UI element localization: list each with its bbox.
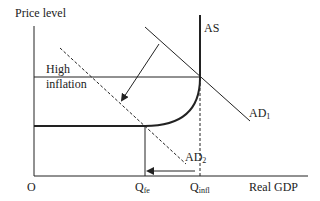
- x-axis-label: Real GDP: [249, 181, 298, 194]
- shift-arrow: [122, 44, 159, 100]
- annotation-line1: High: [46, 63, 70, 76]
- y-axis-label: Price level: [15, 7, 66, 20]
- ad1-curve: [145, 27, 250, 121]
- origin-label: O: [27, 181, 36, 194]
- qinfl-label: Qinfl: [190, 181, 210, 197]
- ad2-curve: [60, 48, 186, 164]
- ad-as-diagram: [0, 0, 320, 201]
- ad2-label: AD2: [185, 151, 206, 167]
- annotation-line2: inflation: [46, 78, 87, 91]
- ad1-label: AD1: [249, 107, 270, 123]
- qfe-label: Qfe: [135, 181, 150, 197]
- as-label: AS: [204, 22, 219, 35]
